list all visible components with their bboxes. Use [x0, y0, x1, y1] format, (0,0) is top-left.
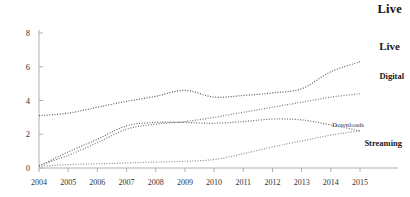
- y-axis-ticks: 02468: [26, 28, 43, 173]
- x-tick-label: 2005: [60, 178, 76, 187]
- x-tick-label: 2015: [352, 178, 368, 187]
- y-tick-label: 0: [26, 163, 30, 173]
- y-tick-label: 8: [26, 28, 30, 38]
- x-tick-label: 2004: [31, 178, 47, 187]
- series-label-streaming: Streaming: [364, 138, 402, 148]
- y-tick-label: 4: [26, 96, 31, 106]
- line-chart: 02468 2004200520062007200820092010201120…: [0, 0, 410, 197]
- x-tick-label: 2009: [177, 178, 193, 187]
- x-tick-label: 2011: [235, 178, 251, 187]
- x-tick-label: 2006: [89, 178, 105, 187]
- y-tick-label: 6: [26, 62, 30, 72]
- chart-figure: Live 02468 20042005200620072008200920102…: [0, 0, 410, 197]
- x-axis-ticks: 2004200520062007200820092010201120122013…: [31, 168, 368, 187]
- series-lines: [39, 62, 360, 167]
- series-line-live: [39, 62, 360, 116]
- x-tick-label: 2010: [206, 178, 222, 187]
- series-label-live: Live: [379, 40, 400, 52]
- series-line-streaming: [39, 131, 360, 166]
- series-label-digital: Digital: [379, 71, 404, 81]
- series-label-downloads: Downloads: [332, 121, 364, 129]
- x-tick-label: 2012: [264, 178, 280, 187]
- x-tick-label: 2013: [294, 178, 310, 187]
- series-line-digital: [39, 94, 360, 166]
- x-tick-label: 2008: [148, 178, 164, 187]
- y-tick-label: 2: [26, 129, 30, 139]
- x-tick-label: 2007: [119, 178, 135, 187]
- series-line-downloads: [39, 119, 360, 166]
- x-tick-label: 2014: [323, 178, 339, 187]
